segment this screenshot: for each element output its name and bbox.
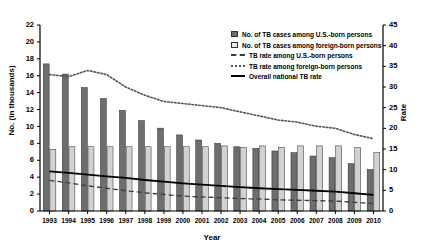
- legend-label: TB rate among foreign-born persons: [249, 62, 362, 69]
- bar-foreign-born-1995: [88, 147, 94, 211]
- legend-item-4: Overall national TB rate: [231, 71, 322, 81]
- bar-foreign-born-1996: [107, 147, 113, 211]
- bar-foreign-born-2004: [260, 146, 266, 211]
- bar-us-born-2009: [348, 164, 354, 211]
- line-dotted: [50, 70, 374, 138]
- bar-foreign-born-1994: [69, 147, 75, 211]
- bar-foreign-born-2009: [355, 148, 361, 211]
- y-tick-label-right: 10: [389, 166, 397, 174]
- y-tick-label-right: 45: [389, 21, 397, 29]
- bar-foreign-born-2001: [202, 147, 208, 211]
- y-tick-label-right: 15: [389, 145, 397, 153]
- y-tick-label-left: 4: [16, 173, 34, 181]
- y-tick-label-left: 20: [16, 38, 34, 46]
- bar-us-born-1996: [100, 99, 106, 211]
- bar-us-born-2003: [234, 147, 240, 211]
- bar-us-born-1997: [119, 110, 125, 211]
- y-tick-label-left: 18: [16, 55, 34, 63]
- legend-marker-line-solid: [231, 75, 245, 77]
- bar-us-born-2007: [310, 156, 316, 211]
- legend-item-0: No. of TB cases among U.S.-born persons: [231, 29, 372, 39]
- legend-label: No. of TB cases among foreign-born perso…: [242, 41, 381, 48]
- y-tick-label-left: 8: [16, 139, 34, 147]
- legend-marker-line-dashed: [231, 54, 245, 56]
- bar-foreign-born-1998: [145, 147, 151, 211]
- legend-item-2: TB rate among U.S.-born persons: [231, 50, 353, 60]
- legend-label: No. of TB cases among U.S.-born persons: [242, 31, 372, 38]
- legend-marker-line-dotted: [231, 65, 245, 67]
- bar-us-born-2004: [253, 148, 259, 211]
- y-tick-label-right: 0: [389, 207, 393, 215]
- bar-foreign-born-2010: [374, 153, 380, 211]
- x-tick-label-2010: 2010: [360, 217, 388, 225]
- bar-us-born-1994: [62, 74, 68, 211]
- bar-us-born-2002: [215, 143, 221, 211]
- bar-foreign-born-2006: [298, 146, 304, 211]
- bar-foreign-born-2002: [221, 146, 227, 211]
- bar-foreign-born-2003: [240, 148, 246, 211]
- y-tick-label-left: 0: [16, 207, 34, 215]
- legend-item-3: TB rate among foreign-born persons: [231, 61, 362, 71]
- y-tick-label-right: 25: [389, 104, 397, 112]
- y-tick-label-left: 14: [16, 89, 34, 97]
- bar-foreign-born-1999: [164, 147, 170, 211]
- y-tick-label-right: 40: [389, 42, 397, 50]
- y-tick-label-left: 16: [16, 72, 34, 80]
- bar-us-born-1998: [139, 121, 145, 211]
- legend-label: TB rate among U.S.-born persons: [249, 52, 353, 59]
- bar-us-born-2000: [177, 135, 183, 211]
- y-tick-label-left: 10: [16, 123, 34, 131]
- y-tick-label-right: 30: [389, 83, 397, 91]
- bar-us-born-2005: [272, 151, 278, 211]
- bar-us-born-2006: [291, 153, 297, 211]
- y-tick-label-left: 6: [16, 156, 34, 164]
- y-tick-label-right: 35: [389, 62, 397, 70]
- legend-marker-swatch-dark: [231, 31, 238, 37]
- bar-us-born-1995: [81, 88, 87, 211]
- y-tick-label-left: 22: [16, 21, 34, 29]
- legend-marker-swatch-light: [231, 42, 238, 48]
- y-tick-label-left: 12: [16, 106, 34, 114]
- legend-item-1: No. of TB cases among foreign-born perso…: [231, 40, 381, 50]
- bar-foreign-born-2005: [279, 148, 285, 211]
- line-solid: [50, 171, 374, 195]
- y-tick-label-left: 2: [16, 190, 34, 198]
- bar-foreign-born-2000: [183, 147, 189, 211]
- bar-us-born-2008: [329, 158, 335, 211]
- bar-us-born-2010: [367, 170, 373, 211]
- bar-us-born-2001: [196, 140, 202, 211]
- bar-us-born-1993: [43, 64, 49, 211]
- bar-us-born-1999: [158, 128, 164, 211]
- y-tick-label-right: 20: [389, 124, 397, 132]
- chart-container: No. (in thousands) Rate Year 02468101214…: [0, 0, 424, 249]
- y-tick-label-right: 5: [389, 186, 393, 194]
- legend-label: Overall national TB rate: [249, 73, 322, 80]
